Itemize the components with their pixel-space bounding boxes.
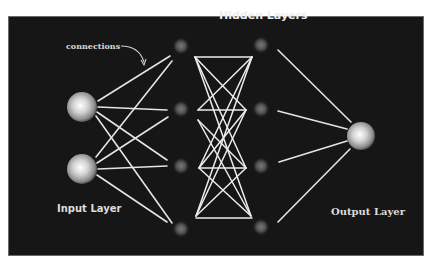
input-to-hidden-connections [96, 56, 172, 223]
input-layer-label: Input Layer [57, 204, 121, 214]
hidden-to-hidden-connections [195, 57, 252, 218]
input-node-1 [67, 92, 97, 122]
hidden1-node-4 [172, 220, 190, 238]
hidden1-node-2 [172, 100, 190, 118]
hidden2-node-1 [252, 36, 270, 54]
output-node [347, 122, 375, 150]
hidden2-node-2 [252, 100, 270, 118]
hidden1-node-3 [172, 157, 190, 175]
input-node-2 [67, 154, 97, 184]
connections-annotation: connections [66, 42, 120, 50]
neural-network-diagram [0, 0, 434, 262]
hidden-to-output-connections [278, 50, 351, 222]
hidden-layers-title: Hidden Layers [219, 10, 308, 21]
hidden2-node-4 [252, 218, 270, 236]
hidden1-node-1 [172, 37, 190, 55]
annotation-arrow [121, 46, 144, 62]
hidden2-node-3 [252, 157, 270, 175]
output-layer-label: Output Layer [331, 207, 405, 217]
